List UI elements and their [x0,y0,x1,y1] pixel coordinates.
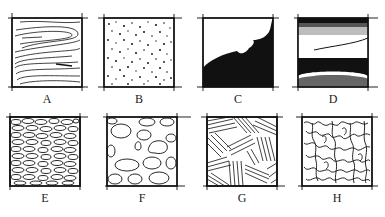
panel-a-wood-grain [12,18,82,87]
crosshatch-texture [201,111,283,192]
large-pebble-texture [101,111,183,192]
panel-label-g: G [207,191,277,206]
small-pebble-texture [4,111,86,192]
panel-label-e: E [10,191,80,206]
squiggle-texture [296,111,378,192]
panel-h-squiggle-network [302,117,372,186]
panel-label-d: D [298,92,368,107]
panel-d-horizontal-bands [298,18,368,87]
panel-label-f: F [107,191,177,206]
panel-e-small-pebbles [10,117,80,186]
panel-g-crosshatch-strokes [207,117,277,186]
stipple-texture [98,12,180,93]
panel-label-h: H [302,191,372,206]
wood-grain-texture [6,12,88,93]
panel-label-b: B [104,92,174,107]
panel-label-a: A [12,92,82,107]
panel-f-large-pebbles [107,117,177,186]
panel-b-stippled-dots [104,18,174,87]
band-texture [292,12,374,93]
panel-c-solid-black-wave [203,18,273,87]
panel-label-c: C [203,92,273,107]
black-wave-texture [197,12,279,93]
